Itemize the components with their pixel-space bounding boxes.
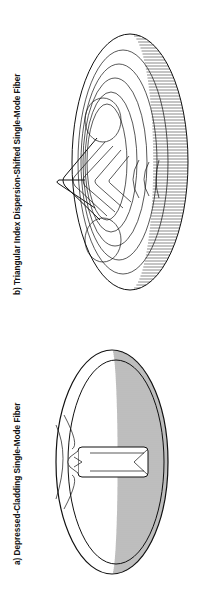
figure-b-caption: b) Triangular Index Dispersion-Shifted S… xyxy=(13,73,22,295)
figure-a-caption: a) Depressed-Cladding Single-Mode Fiber xyxy=(13,403,22,565)
figure-a-depressed-cladding-plot xyxy=(50,345,175,580)
figure-b-triangular-index-plot xyxy=(55,30,190,295)
